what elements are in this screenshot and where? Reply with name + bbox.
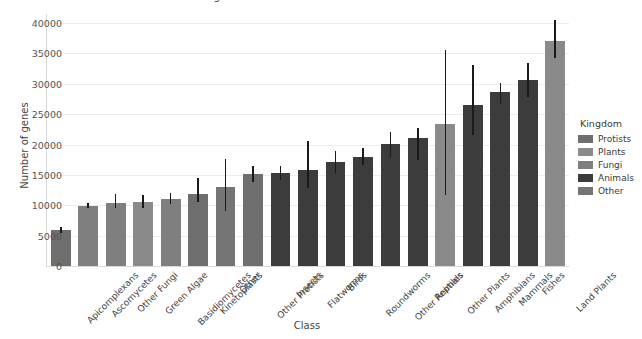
error-bar [252,166,254,182]
bar[interactable] [78,206,98,266]
bar-group[interactable] [239,14,266,266]
bar-group[interactable] [514,14,541,266]
legend-label: Protists [598,134,631,144]
y-axis-label: Number of genes [19,86,30,206]
bar-group[interactable] [322,14,349,266]
chart-title: for genomes in different classes [0,0,560,2]
y-tick-label: 35000 [16,48,62,59]
error-bar [335,151,337,173]
legend-label: Animals [598,173,634,183]
bar[interactable] [545,41,565,266]
bar-group[interactable] [542,14,569,266]
y-tick-label: 40000 [16,18,62,29]
legend-item[interactable]: Animals [578,172,642,184]
error-bar [417,128,419,160]
bar[interactable] [381,144,401,266]
x-tick-label: Reptiles [432,270,464,302]
error-bar [445,50,447,195]
plot-area [46,14,569,267]
error-bar [115,194,117,208]
legend-swatch-icon [578,148,593,156]
bar-group[interactable] [294,14,321,266]
legend-item[interactable]: Protists [578,133,642,145]
error-bar [390,132,392,158]
legend-swatch-icon [578,187,593,195]
legend: Kingdom ProtistsPlantsFungiAnimalsOther [578,118,642,198]
y-tick-label: 5000 [16,230,62,241]
bar[interactable] [271,173,291,266]
legend-title: Kingdom [578,118,642,129]
bar-group[interactable] [459,14,486,266]
x-tick-label: Land Plants [575,270,619,314]
bar[interactable] [353,157,373,266]
x-tick-label: Insects [294,270,324,300]
bar[interactable] [188,194,208,266]
bar-group[interactable] [404,14,431,266]
bar-group[interactable] [102,14,129,266]
bar-group[interactable] [74,14,101,266]
bar-group[interactable] [157,14,184,266]
bar-group[interactable] [487,14,514,266]
bar-group[interactable] [377,14,404,266]
bar-group[interactable] [129,14,156,266]
error-bar [87,203,89,208]
error-bar [500,83,502,104]
legend-item[interactable]: Other [578,185,642,197]
x-axis-label: Class [46,320,568,331]
legend-items: ProtistsPlantsFungiAnimalsOther [578,133,642,197]
legend-label: Other [598,186,624,196]
chart-figure: for genomes in different classes 0500010… [0,0,642,339]
bar[interactable] [490,92,510,266]
x-tick-label: Birds [346,270,369,293]
error-bar [472,65,474,135]
bar-group[interactable] [184,14,211,266]
legend-item[interactable]: Fungi [578,159,642,171]
legend-swatch-icon [578,135,593,143]
legend-label: Plants [598,147,625,157]
bar[interactable] [243,174,263,266]
bar[interactable] [106,203,126,266]
bar-group[interactable] [267,14,294,266]
error-bar [142,195,144,208]
bar-group[interactable] [212,14,239,266]
error-bar [170,193,172,205]
legend-swatch-icon [578,161,593,169]
error-bar [554,20,556,58]
bar[interactable] [161,199,181,266]
error-bar [307,141,309,188]
legend-item[interactable]: Plants [578,146,642,158]
bar[interactable] [326,162,346,266]
legend-label: Fungi [598,160,622,170]
error-bar [280,166,282,180]
error-bar [362,148,364,165]
error-bar [197,178,199,202]
bar[interactable] [518,80,538,266]
bar-group[interactable] [432,14,459,266]
y-tick-label: 0 [16,261,62,272]
legend-swatch-icon [578,174,593,182]
error-bar [225,159,227,211]
error-bar [527,63,529,97]
bar[interactable] [133,202,153,266]
bar-group[interactable] [349,14,376,266]
